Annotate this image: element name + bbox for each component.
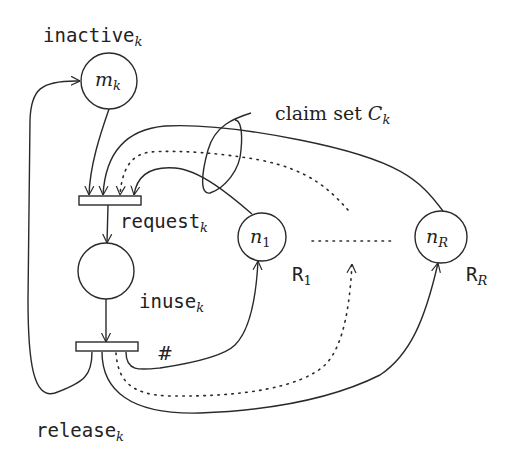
- label-release: releasek: [36, 419, 124, 444]
- arc-release-to-n1: [126, 261, 258, 369]
- label-inactive: inactivek: [43, 24, 143, 49]
- arc-inactive-to-request: [89, 109, 109, 195]
- label-RR: RR: [466, 263, 487, 288]
- arc-release-to-nR: [102, 263, 438, 413]
- transition-request: [79, 196, 141, 205]
- label-inuse: inusek: [139, 290, 204, 315]
- label-R1: R1: [292, 263, 312, 288]
- label-claim-set: claim set Ck: [275, 102, 390, 127]
- label-request: requestk: [120, 210, 208, 235]
- petri-net-diagram: inactivek mk requestk inusek releasek n1…: [0, 0, 517, 460]
- arc-release-to-dotted: [116, 264, 352, 396]
- arc-nR-to-request: [103, 126, 443, 211]
- place-inuse: [78, 243, 134, 299]
- label-hash: #: [157, 342, 173, 364]
- transition-release: [76, 342, 138, 351]
- arc-request-to-inuse: [107, 205, 108, 243]
- arc-n1-to-request: [134, 168, 252, 214]
- arc-dotted-to-request: [120, 151, 348, 210]
